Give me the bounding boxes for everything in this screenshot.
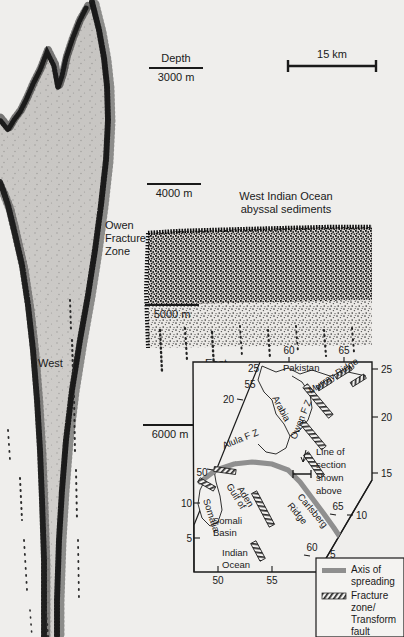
lat-tick-left-20: 20 [223, 394, 235, 405]
legend-label-spreading-2: spreading [351, 576, 395, 587]
abyssal-line-2: abyssal sediments [241, 203, 332, 215]
ofz-line-2: Fracture [105, 232, 146, 244]
map-label-somali-basin-1: Somali [213, 515, 242, 526]
depth-label-4000: 4000 m [156, 187, 193, 199]
section-text-2: section [316, 459, 346, 470]
lat-tick-left-5: 5 [186, 533, 192, 544]
depth-label-6000: 6000 m [152, 428, 189, 440]
abyssal-line-1: West Indian Ocean [239, 190, 332, 202]
lon-tick-diag-50: 50 [196, 467, 208, 478]
lon-tick-top-60: 60 [283, 345, 295, 356]
lon-tick-diag-55: 55 [244, 379, 256, 390]
legend-label-fracture-2: zone/ [351, 602, 376, 613]
legend-label-fracture-1: Fracture [351, 590, 389, 601]
depth-axis-title: Depth [161, 52, 190, 64]
label-west: West [38, 357, 63, 369]
lon-tick-bottom-50: 50 [212, 575, 224, 586]
legend-label-spreading-1: Axis of [351, 564, 381, 575]
scale-bar-label: 15 km [317, 48, 347, 60]
lat-tick-right-10: 10 [356, 510, 368, 521]
ofz-line-3: Zone [105, 245, 130, 257]
lat-tick-right-25: 25 [381, 364, 393, 375]
depth-label-5000: 5000 m [154, 308, 191, 320]
map-label-pakistan: Pakistan [283, 362, 319, 373]
annotation-abyssal-sediments: West Indian Ocean abyssal sediments [239, 190, 332, 215]
legend-label-fracture-3: Transform [351, 614, 396, 625]
lat-tick-right-15: 15 [381, 468, 393, 479]
map-label-indian-ocean-1: Indian [222, 547, 248, 558]
lon-tick-bottom-55: 55 [266, 575, 278, 586]
map-legend: Axis of spreading Fracture zone/ Transfo… [316, 558, 404, 637]
section-text-3: shown [316, 472, 343, 483]
lat-tick-corner-25: 25 [248, 363, 260, 374]
lat-tick-left-10: 10 [181, 498, 193, 509]
map-label-indian-ocean-2: Ocean [222, 559, 250, 570]
legend-swatch-fracture-zone [322, 593, 346, 599]
lon-tick-top-65: 65 [338, 345, 350, 356]
figure-seismic-profile: 15 km Depth 3000 m 4000 m 5000 m 6000 m … [0, 0, 404, 637]
depth-label-3000: 3000 m [158, 71, 195, 83]
ofz-line-1: Owen [105, 219, 134, 231]
lat-tick-right-20: 20 [381, 412, 393, 423]
lon-tick-diag-65: 65 [332, 501, 344, 512]
legend-label-fracture-4: fault [351, 626, 370, 637]
lon-tick-diag-60: 60 [306, 542, 318, 553]
map-label-somali-basin-2: Basin [213, 527, 237, 538]
section-text-1: Line of [316, 446, 345, 457]
legend-swatch-spreading-axis [322, 568, 346, 573]
section-text-4: above [316, 485, 342, 496]
